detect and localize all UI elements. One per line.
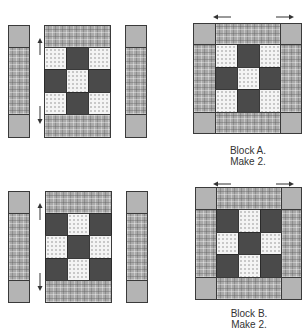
corner-square: [193, 23, 216, 45]
patch-light: [67, 213, 90, 236]
corner-square: [281, 187, 302, 210]
patch-light: [44, 47, 67, 70]
corner-square: [126, 280, 148, 303]
caption-line-1: Block A.: [193, 145, 303, 156]
nine-patch-a-finished: [215, 44, 281, 113]
right-border-strip: [280, 44, 302, 113]
corner-square: [8, 191, 30, 214]
bottom-border-strip: [44, 114, 111, 138]
patch-dark: [45, 258, 68, 281]
patch-light: [215, 89, 238, 113]
arrow-up-icon: [37, 203, 43, 221]
patch-dark: [66, 92, 89, 115]
arrow-left-icon: [213, 14, 231, 20]
arrow-down-icon: [37, 106, 43, 124]
corner-square: [280, 112, 302, 134]
patch-dark: [259, 67, 281, 90]
nine-patch-b-finished: [216, 209, 282, 278]
patch-dark: [260, 209, 282, 233]
block-b-caption: Block B. Make 2.: [194, 308, 304, 330]
corner-square: [280, 23, 302, 45]
patch-light: [215, 44, 238, 68]
patch-light: [45, 235, 68, 259]
bottom-border-strip: [215, 112, 281, 134]
top-border-strip: [215, 23, 281, 45]
patch-light: [216, 232, 239, 255]
patch-dark: [45, 213, 68, 236]
side-border-strip: [8, 47, 30, 115]
patch-dark: [237, 89, 260, 113]
side-border-strip: [8, 213, 30, 281]
patch-light: [259, 89, 281, 113]
patch-dark: [88, 69, 111, 93]
patch-light: [237, 67, 260, 90]
corner-square: [195, 187, 217, 210]
top-border-strip: [45, 191, 112, 214]
patch-dark: [44, 69, 67, 93]
nine-patch-a: [44, 47, 111, 115]
patch-light: [88, 47, 111, 70]
patch-light: [89, 235, 112, 259]
patch-dark: [215, 67, 238, 90]
corner-square: [195, 277, 217, 300]
patch-dark: [66, 47, 89, 70]
left-border-strip: [193, 44, 216, 113]
corner-square: [193, 112, 216, 134]
patch-light: [66, 69, 89, 93]
patch-light: [259, 44, 281, 68]
top-border-strip: [44, 25, 111, 48]
bottom-border-strip: [45, 280, 112, 303]
caption-line-1: Block B.: [194, 308, 304, 319]
caption-line-2: Make 2.: [194, 319, 304, 330]
patch-light: [67, 258, 90, 281]
left-border-strip: [195, 209, 217, 278]
corner-square: [8, 114, 30, 138]
caption-line-2: Make 2.: [193, 156, 303, 167]
corner-square: [125, 25, 147, 48]
patch-light: [238, 254, 261, 278]
bottom-border-strip: [216, 277, 282, 300]
nine-patch-b: [45, 213, 112, 281]
patch-light: [238, 209, 261, 233]
patch-light: [88, 92, 111, 115]
top-border-strip: [216, 187, 282, 210]
patch-dark: [89, 213, 112, 236]
block-a-caption: Block A. Make 2.: [193, 145, 303, 167]
patch-dark: [260, 254, 282, 278]
patch-dark: [89, 258, 112, 281]
patch-light: [44, 92, 67, 115]
patch-dark: [216, 254, 239, 278]
arrow-up-icon: [37, 38, 43, 56]
corner-square: [8, 25, 30, 48]
arrow-down-icon: [37, 273, 43, 291]
patch-dark: [238, 232, 261, 255]
side-border-strip: [125, 47, 147, 115]
patch-dark: [67, 235, 90, 259]
corner-square: [8, 280, 30, 303]
patch-dark: [237, 44, 260, 68]
patch-light: [260, 232, 282, 255]
corner-square: [281, 277, 302, 300]
corner-square: [126, 191, 148, 214]
arrow-right-icon: [276, 14, 294, 20]
right-border-strip: [281, 209, 302, 278]
side-border-strip: [126, 213, 148, 281]
patch-dark: [216, 209, 239, 233]
corner-square: [125, 114, 147, 138]
